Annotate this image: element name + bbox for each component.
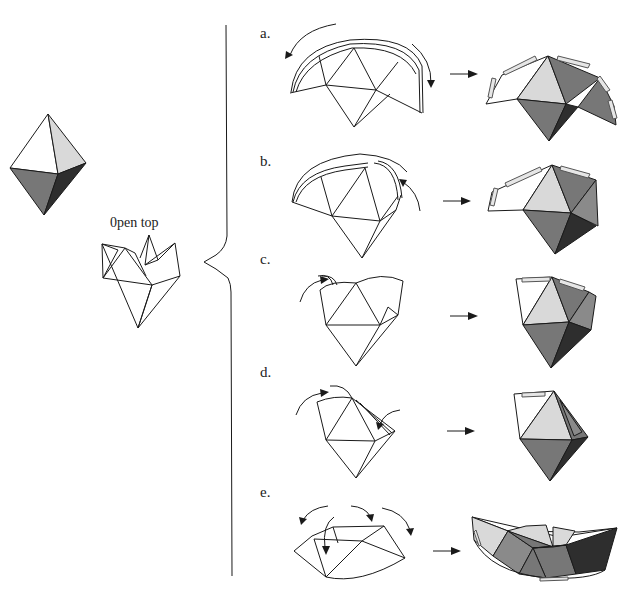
step-b-flat bbox=[292, 154, 407, 258]
step-e-result bbox=[472, 517, 617, 581]
folding-diagram: 0pen top a. bbox=[0, 0, 628, 591]
step-e-flat bbox=[294, 526, 405, 579]
step-c-arrows[interactable] bbox=[300, 276, 329, 302]
step-a-label: a. bbox=[260, 25, 270, 41]
step-c-label: c. bbox=[260, 251, 270, 267]
step-d-label: d. bbox=[260, 364, 271, 380]
curly-brace bbox=[204, 25, 232, 576]
step-d-flat bbox=[317, 386, 395, 478]
step-b-result bbox=[488, 165, 598, 254]
open-top-caption: 0pen top bbox=[110, 215, 159, 230]
step-d-right-arrow bbox=[447, 427, 475, 435]
step-a-right-arrow bbox=[450, 70, 478, 78]
open-top-octahedron bbox=[102, 235, 180, 328]
step-a-flat bbox=[290, 39, 423, 127]
step-c-flat bbox=[318, 275, 403, 366]
octahedron-solid bbox=[10, 114, 86, 215]
step-a-arrows[interactable] bbox=[285, 24, 435, 88]
step-d-arrows[interactable] bbox=[296, 389, 400, 430]
step-b-label: b. bbox=[260, 153, 271, 169]
step-d-result bbox=[514, 391, 588, 481]
step-a-result bbox=[486, 56, 617, 141]
step-e-label: e. bbox=[260, 484, 270, 500]
step-c-right-arrow bbox=[450, 312, 478, 320]
step-e-right-arrow bbox=[433, 547, 461, 555]
step-c-result bbox=[516, 277, 596, 368]
step-b-right-arrow bbox=[443, 197, 471, 205]
